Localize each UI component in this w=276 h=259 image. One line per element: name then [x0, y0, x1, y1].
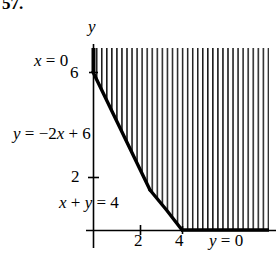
shaded-region: [93, 48, 269, 230]
label-x-equals-0: x = 0: [34, 52, 68, 69]
figure-root: 57.: [0, 0, 276, 259]
region-hatching: [93, 48, 269, 230]
y-tick-label-6: 6: [70, 64, 79, 81]
label-y-equals-0: y = 0: [209, 232, 243, 249]
x-tick-label-2: 2: [134, 232, 143, 249]
y-axis-name: y: [88, 18, 96, 35]
label-x-plus-y-equals-4: x + y = 4: [59, 194, 119, 211]
y-tick-label-2: 2: [71, 168, 80, 185]
label-y-equals-neg2x-plus-6: y = −2x + 6: [13, 125, 91, 142]
x-tick-label-4: 4: [175, 232, 184, 249]
